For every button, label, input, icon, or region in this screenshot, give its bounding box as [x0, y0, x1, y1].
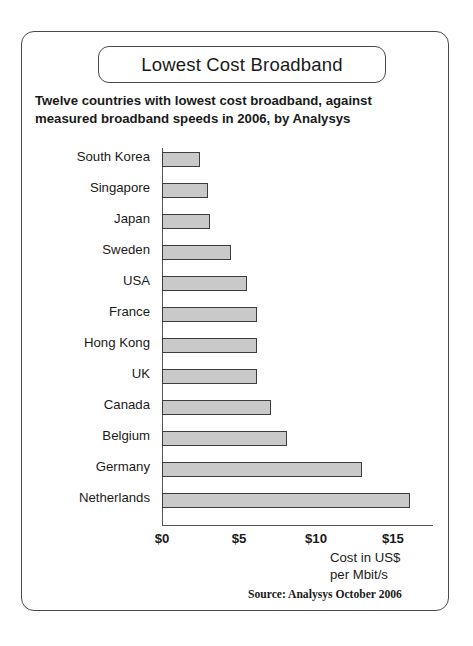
- bar-row: Netherlands: [162, 489, 433, 520]
- category-label: Netherlands: [79, 490, 150, 505]
- category-label: Japan: [114, 211, 150, 226]
- bar-row: Belgium: [162, 427, 433, 458]
- category-label: France: [109, 304, 150, 319]
- category-label: Canada: [104, 397, 150, 412]
- chart-page: Lowest Cost Broadband Twelve countries w…: [0, 0, 473, 646]
- x-axis-label-line-1: Cost in US$: [330, 549, 400, 566]
- bar: [162, 245, 231, 260]
- bar: [162, 462, 362, 477]
- x-axis-label: Cost in US$ per Mbit/s: [330, 549, 400, 583]
- bar-row: Canada: [162, 396, 433, 427]
- chart-title-box: Lowest Cost Broadband: [98, 46, 386, 83]
- bar: [162, 183, 208, 198]
- bar: [162, 276, 247, 291]
- x-tick-label: $5: [232, 531, 247, 546]
- bar-row: Singapore: [162, 179, 433, 210]
- x-axis-label-line-2: per Mbit/s: [330, 566, 400, 583]
- bar: [162, 338, 257, 353]
- bar-row: Germany: [162, 458, 433, 489]
- x-tick-label: $15: [382, 531, 404, 546]
- plot-area: South KoreaSingaporeJapanSwedenUSAFrance…: [162, 148, 433, 525]
- bar-row: UK: [162, 365, 433, 396]
- bar-row: Hong Kong: [162, 334, 433, 365]
- bar-row: Japan: [162, 210, 433, 241]
- chart-subtitle: Twelve countries with lowest cost broadb…: [35, 92, 435, 128]
- x-tick-label: $10: [305, 531, 327, 546]
- source-note: Source: Analysys October 2006: [248, 588, 402, 601]
- bar: [162, 431, 287, 446]
- category-label: Germany: [96, 459, 150, 474]
- category-label: South Korea: [77, 149, 150, 164]
- bar: [162, 152, 200, 167]
- bar-row: South Korea: [162, 148, 433, 179]
- bar: [162, 369, 257, 384]
- x-axis-line: [162, 525, 433, 526]
- bar-row: France: [162, 303, 433, 334]
- bar-row: Sweden: [162, 241, 433, 272]
- bar-row: USA: [162, 272, 433, 303]
- category-label: Sweden: [102, 242, 150, 257]
- bar: [162, 307, 257, 322]
- chart-title: Lowest Cost Broadband: [141, 54, 343, 76]
- category-label: Singapore: [90, 180, 150, 195]
- category-label: Hong Kong: [84, 335, 150, 350]
- x-tick-label: $0: [155, 531, 170, 546]
- bar: [162, 493, 410, 508]
- category-label: USA: [123, 273, 150, 288]
- chart-subtitle-line-2: measured broadband speeds in 2006, by An…: [35, 110, 435, 128]
- bar: [162, 214, 210, 229]
- category-label: Belgium: [102, 428, 150, 443]
- category-label: UK: [132, 366, 150, 381]
- chart-subtitle-line-1: Twelve countries with lowest cost broadb…: [35, 92, 435, 110]
- bar: [162, 400, 271, 415]
